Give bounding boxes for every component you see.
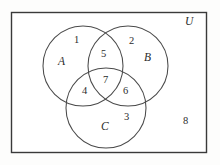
set-label-c: C bbox=[101, 121, 109, 133]
universe-rectangle bbox=[12, 13, 207, 153]
venn-diagram-figure: U A B C 1 2 3 4 5 6 7 8 bbox=[0, 0, 220, 165]
region-label-8: 8 bbox=[183, 116, 188, 127]
region-label-1: 1 bbox=[74, 35, 79, 46]
region-label-4: 4 bbox=[82, 86, 87, 97]
region-label-2: 2 bbox=[129, 36, 134, 47]
region-label-3: 3 bbox=[124, 112, 129, 123]
universe-label: U bbox=[185, 16, 193, 28]
region-label-5: 5 bbox=[101, 49, 106, 60]
set-label-a: A bbox=[58, 56, 65, 68]
set-label-b: B bbox=[144, 52, 151, 64]
region-label-7: 7 bbox=[103, 75, 108, 86]
region-label-6: 6 bbox=[123, 86, 128, 97]
